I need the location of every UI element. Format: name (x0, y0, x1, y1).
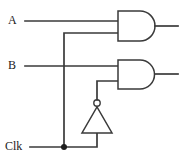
wire-clk-to-inverter (64, 133, 97, 147)
circuit-diagram: A B Clk (0, 0, 182, 163)
junction-dot-clk (61, 144, 67, 150)
wire-inverter-to-and-bottom (97, 81, 118, 100)
and-gate-top[interactable] (118, 11, 155, 41)
circuit-canvas (0, 0, 182, 163)
and-gate-bottom[interactable] (118, 60, 155, 89)
inverter-triangle-icon (82, 107, 112, 133)
input-label-b: B (8, 59, 16, 71)
input-label-clk: Clk (5, 140, 22, 152)
input-label-a: A (8, 14, 17, 26)
